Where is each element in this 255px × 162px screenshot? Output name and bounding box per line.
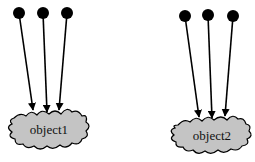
arrow-2-1 bbox=[185, 16, 199, 117]
source-dot-1-2[interactable] bbox=[37, 7, 49, 19]
group-2: object2 bbox=[171, 9, 251, 153]
source-dot-2-2[interactable] bbox=[202, 9, 214, 21]
diagram-canvas: object1 object2 bbox=[0, 0, 255, 162]
source-dot-1-3[interactable] bbox=[61, 7, 73, 19]
object2-label: object2 bbox=[193, 128, 231, 143]
arrow-1-2 bbox=[43, 13, 47, 112]
object1-label: object1 bbox=[30, 122, 68, 137]
arrow-1-3 bbox=[59, 13, 67, 110]
source-dot-1-1[interactable] bbox=[13, 7, 25, 19]
diagram-svg: object1 object2 bbox=[0, 0, 255, 162]
arrow-2-2 bbox=[208, 15, 212, 118]
arrow-1-1 bbox=[19, 13, 33, 110]
group-1: object1 bbox=[9, 7, 90, 149]
arrow-2-3 bbox=[225, 16, 233, 116]
source-dot-2-3[interactable] bbox=[227, 10, 239, 22]
source-dot-2-1[interactable] bbox=[179, 10, 191, 22]
